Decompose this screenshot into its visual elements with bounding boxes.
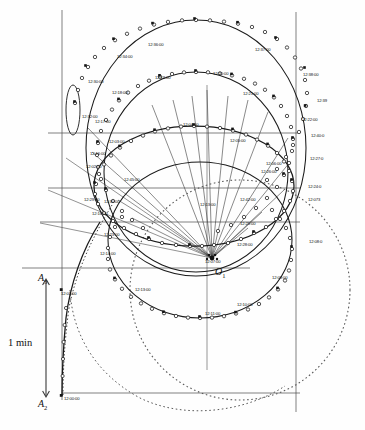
time-label: 12:45:00 (124, 178, 140, 182)
time-label: 12:30:00 (88, 80, 104, 84)
time-label: 12:28:00 (237, 243, 253, 247)
time-label: 12:16:00 (92, 212, 108, 216)
time-label: 12:38:00 (303, 73, 319, 77)
diagram-canvas (0, 0, 365, 430)
axis-label-a2: A2 (38, 398, 47, 411)
time-label: 12:20:00 (213, 72, 229, 76)
time-label: 12:36:00 (148, 43, 164, 47)
time-label: 12:23:00 (104, 233, 120, 237)
time-label: 12:16:00 (90, 152, 106, 156)
time-label: 12:00:00 (64, 397, 80, 401)
time-label: 12:29:00 (84, 198, 100, 202)
time-label: 12:40:0 (311, 134, 324, 138)
time-label: 12:30:00 (104, 200, 120, 204)
small-left-loop (66, 85, 80, 135)
time-label: 12:08:0 (309, 240, 322, 244)
time-label: 12:42:00 (240, 198, 256, 202)
time-label: 12:03:00 (109, 140, 125, 144)
time-label: 12:34:00 (117, 55, 133, 59)
time-label: 12:07:00 (205, 260, 221, 264)
radial-line-3 (192, 96, 212, 258)
radial-line-16 (92, 152, 212, 258)
lower-trajectory-loop (108, 162, 292, 318)
time-label: 12:37:00 (255, 48, 271, 52)
time-label: 12:073 (308, 198, 320, 202)
scale-bar (43, 279, 50, 397)
time-label: 12:06:00 (266, 162, 282, 166)
radial-line-5 (212, 96, 228, 258)
time-label: 12:24:0 (308, 185, 321, 189)
center-point-label: O1 (215, 266, 225, 279)
radial-line-4 (207, 90, 212, 258)
time-label: 12:10:00 (237, 303, 253, 307)
time-label: 12:11:00 (205, 312, 220, 316)
time-label: 12:19:00 (155, 76, 171, 80)
time-label: 12:26:00 (261, 170, 277, 174)
time-label: 12:04:00 (183, 123, 199, 127)
time-label: 12:39 (317, 99, 327, 103)
time-label: 12:18:00 (112, 91, 128, 95)
marker-group-outer (73, 18, 308, 181)
time-label: 12:14:00 (100, 252, 116, 256)
time-label: 12:13:00 (135, 288, 151, 292)
axis-label-a3: A3 (38, 272, 47, 285)
marker-group-outer-filled (73, 17, 306, 107)
time-label: 12:22:00 (302, 118, 318, 122)
chord-lines (40, 158, 212, 258)
time-label: 12:27:0 (310, 157, 323, 161)
time-label: 12:02:00 (86, 165, 102, 169)
time-label: 12:25:00 (240, 222, 256, 226)
time-label: 12:09:00 (272, 276, 288, 280)
time-label: 12:01:00 (61, 292, 77, 296)
time-label: 12:21:00 (243, 92, 259, 96)
trajectory-diagram: O1 A3 A2 1 min 12:36:0012:34:0012:37:001… (0, 0, 365, 430)
time-label: 12:13:00 (200, 203, 216, 207)
chord-line-1 (48, 190, 212, 258)
dashed-reference-circle (130, 180, 350, 400)
time-label: 12:17:00 (95, 120, 111, 124)
time-label: 12:05:00 (230, 139, 246, 143)
scale-bar-label: 1 min (8, 337, 32, 348)
